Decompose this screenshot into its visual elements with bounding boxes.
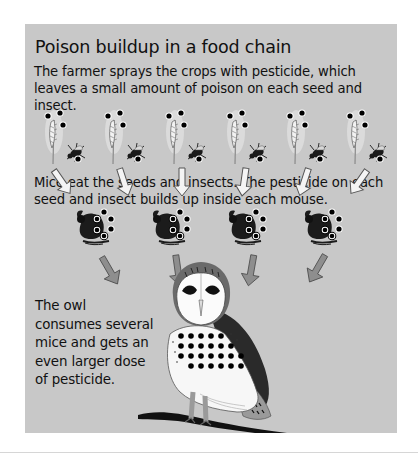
mouse-group-3: [229, 208, 267, 287]
food-chain-illustration: [25, 24, 397, 433]
crop-row: [44, 109, 387, 198]
crop-group-2: [104, 109, 145, 197]
mouse-group-1: [77, 208, 125, 288]
mouse-group-4: [302, 208, 343, 286]
crop-group-6: [344, 109, 387, 198]
crop-group-4: [226, 109, 267, 197]
crop-group-1: [44, 109, 85, 198]
barn-owl: [138, 262, 287, 433]
food-chain-panel: Poison buildup in a food chain The farme…: [25, 24, 397, 433]
page-divider: [0, 452, 418, 453]
crop-group-5: [286, 109, 327, 197]
crop-group-3: [165, 109, 206, 196]
